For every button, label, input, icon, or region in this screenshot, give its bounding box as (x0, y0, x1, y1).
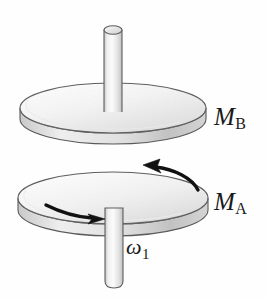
label-angular-velocity: ω1 (126, 236, 150, 262)
label-mass-a-symbol: M (214, 188, 235, 215)
lower-shaft-group (105, 208, 123, 288)
upper-shaft-group (104, 26, 122, 115)
label-mass-a: MA (214, 189, 247, 217)
upper-shaft-top-cap (104, 26, 122, 34)
label-mass-b-subscript: B (235, 115, 246, 132)
physics-figure-rotating-discs: MB MA ω1 (0, 0, 267, 298)
label-mass-b-symbol: M (214, 103, 235, 130)
label-angular-velocity-subscript: 1 (142, 246, 150, 262)
upper-shaft-body (104, 30, 122, 115)
label-angular-velocity-symbol: ω (126, 234, 142, 259)
label-mass-b: MB (214, 104, 246, 132)
lower-shaft-body (105, 208, 123, 288)
label-mass-a-subscript: A (235, 200, 247, 217)
